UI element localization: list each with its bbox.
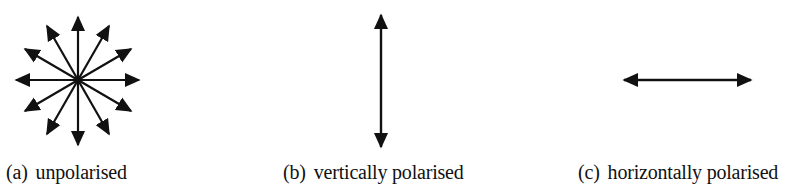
- caption-label: (b): [283, 161, 306, 183]
- caption-text: unpolarised: [36, 161, 127, 183]
- caption-text: horizontally polarised: [608, 161, 779, 183]
- caption-text: vertically polarised: [314, 161, 464, 183]
- caption-unpolarised: (a)unpolarised: [6, 161, 127, 184]
- caption-label: (a): [6, 161, 28, 183]
- caption-vertically-polarised: (b)vertically polarised: [283, 161, 464, 184]
- caption-horizontally-polarised: (c)horizontally polarised: [578, 161, 778, 184]
- unpolarised-star-icon: [16, 17, 139, 145]
- caption-label: (c): [578, 161, 600, 183]
- polarisation-diagram: [0, 0, 807, 160]
